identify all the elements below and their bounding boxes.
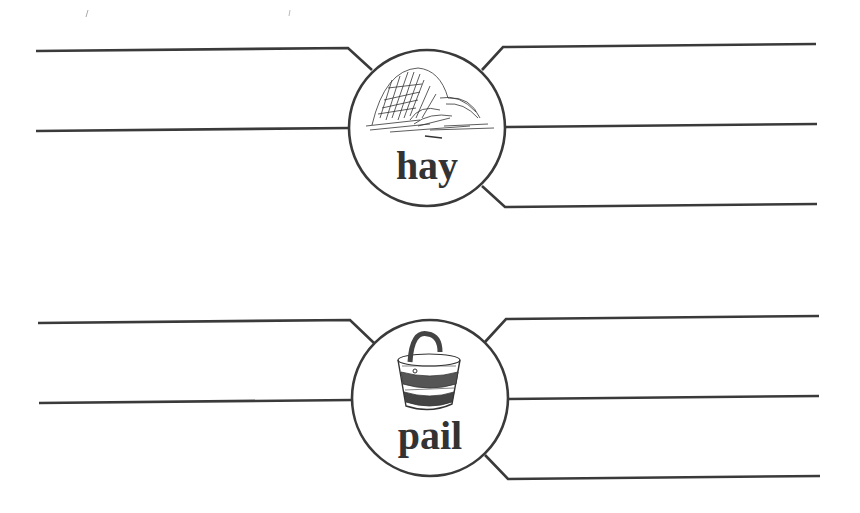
writing-line[interactable] [505,124,817,127]
writing-line[interactable] [508,396,819,399]
word-label-pail: pail [350,416,510,456]
word-label-hay: hay [347,146,507,186]
writing-line[interactable] [485,316,819,342]
writing-line[interactable] [482,44,816,70]
stray-mark [86,10,88,17]
writing-line[interactable] [39,400,352,403]
writing-line[interactable] [485,455,820,479]
stray-mark [289,10,290,16]
writing-line[interactable] [36,128,350,131]
writing-line[interactable] [482,186,817,207]
writing-line[interactable] [36,48,372,70]
writing-line[interactable] [38,320,374,343]
